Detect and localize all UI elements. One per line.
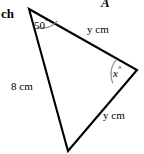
angle-label-50: 50° (34, 17, 49, 31)
triangle-drawing (0, 0, 144, 154)
clipped-glyph: A (101, 0, 110, 9)
angle-label-x: x° (113, 65, 121, 79)
geometry-figure: A ch 50° x° 8 cm y cm y cm (0, 0, 144, 154)
side-label-y-bottom: y cm (103, 110, 125, 121)
side-label-8cm: 8 cm (11, 81, 33, 92)
corner-label-ch: ch (1, 7, 14, 20)
side-label-y-top: y cm (87, 24, 109, 35)
